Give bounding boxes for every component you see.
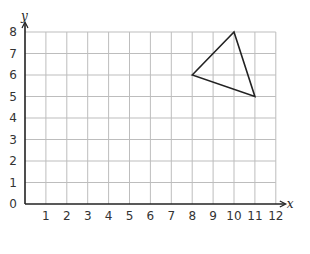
x-tick-label: 10 (226, 209, 241, 223)
y-tick-label: 1 (9, 176, 17, 190)
x-tick-label: 6 (147, 209, 155, 223)
x-tick-label: 9 (209, 209, 217, 223)
y-tick-label: 8 (9, 25, 17, 39)
y-tick-label: 7 (9, 47, 17, 61)
triangle (192, 32, 255, 97)
triangle-shape (192, 32, 255, 97)
x-tick-label: 8 (188, 209, 196, 223)
y-tick-label: 5 (9, 90, 17, 104)
y-tick-label: 4 (9, 111, 17, 125)
x-tick-label: 12 (268, 209, 283, 223)
y-tick-label: 6 (9, 68, 17, 82)
x-tick-label: 5 (126, 209, 134, 223)
y-tick-label: 2 (9, 154, 17, 168)
x-tick-label: 3 (84, 209, 92, 223)
y-tick-label: 0 (9, 197, 17, 211)
x-tick-label: 11 (247, 209, 262, 223)
x-axis-label: x (287, 197, 294, 211)
axes (22, 22, 286, 207)
x-tick-label: 4 (105, 209, 113, 223)
coordinate-grid-chart: 123456789101112012345678 x y (0, 0, 310, 254)
y-axis-label: y (20, 9, 28, 23)
x-tick-label: 7 (167, 209, 175, 223)
y-tick-label: 3 (9, 133, 17, 147)
x-tick-label: 1 (42, 209, 50, 223)
tick-labels: 123456789101112012345678 (9, 25, 283, 223)
grid-lines (25, 32, 276, 204)
x-tick-label: 2 (63, 209, 71, 223)
